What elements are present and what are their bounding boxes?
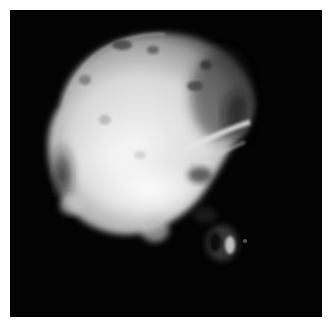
image-frame xyxy=(0,0,328,329)
xray-image xyxy=(10,10,322,317)
skull-xray-graphic xyxy=(10,10,322,317)
